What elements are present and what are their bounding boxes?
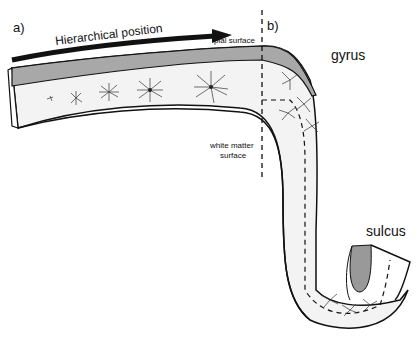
- sulcus-pocket: [350, 245, 371, 292]
- sulcus-label: sulcus: [366, 223, 406, 239]
- white-matter-label-2: surface: [220, 151, 246, 160]
- pial-surface-label: pial surface: [214, 36, 255, 45]
- white-matter-edge: [18, 109, 310, 320]
- panel-b-label: b): [267, 18, 279, 33]
- white-matter-label-1: white matter: [210, 141, 254, 150]
- panel-a-label: a): [13, 20, 25, 35]
- cortex-diagram: a) b) Hierarchical position pial surface…: [0, 0, 420, 345]
- gyrus-label: gyrus: [331, 47, 365, 63]
